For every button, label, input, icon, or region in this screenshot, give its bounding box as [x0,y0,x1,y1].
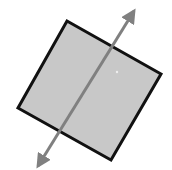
diagram-canvas [0,0,172,170]
center-highlight [116,71,118,73]
